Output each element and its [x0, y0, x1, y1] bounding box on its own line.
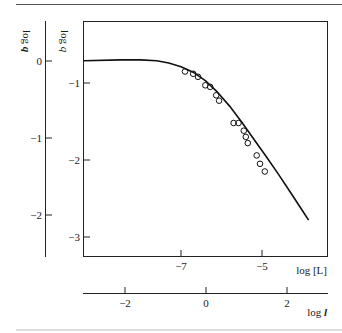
inner-y-title: log q: [59, 30, 71, 53]
data-point: [254, 153, 260, 159]
data-points: [182, 69, 267, 175]
secondary-x-tick-label: 2: [284, 297, 290, 309]
outer-y-tick-label: −1: [30, 132, 42, 144]
outer-y-tick-label: −2: [30, 209, 42, 221]
inner-y-tick-label: −2: [68, 154, 80, 166]
secondary-x-axis: −202 log l: [83, 287, 328, 318]
x-tick-label: −7: [175, 260, 187, 272]
outer-y-title: log q: [21, 30, 33, 53]
outer-y-tick-label: 0: [37, 55, 43, 67]
data-point: [216, 98, 222, 104]
outer-y-axis: 0−1−2 log q: [21, 21, 52, 257]
data-point: [241, 128, 247, 134]
secondary-x-tick-label: −2: [119, 297, 131, 309]
secondary-x-title: log l: [307, 306, 328, 318]
secondary-x-tick-label: 0: [203, 297, 209, 309]
x-axis-title: log [L]: [296, 264, 327, 276]
x-axis: −7−5: [175, 250, 268, 272]
plot-frame: [84, 22, 328, 257]
inner-y-tick-label: −3: [68, 231, 80, 243]
data-point: [182, 69, 188, 75]
data-point: [213, 93, 219, 99]
fitted-curve: [84, 60, 309, 220]
inner-y-tick-label: −1: [68, 77, 80, 89]
chart: 0−1−2 log q −1−2−3 log q −7−5 log [L] −2…: [0, 0, 342, 333]
data-point: [243, 134, 249, 140]
data-point: [262, 169, 268, 175]
inner-y-axis: −1−2−3: [68, 77, 90, 243]
data-point: [245, 140, 251, 146]
x-tick-label: −5: [256, 260, 268, 272]
data-point: [257, 161, 263, 167]
